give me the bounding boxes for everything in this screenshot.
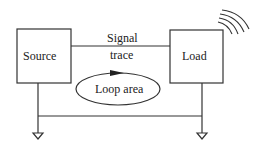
source-label: Source [23, 50, 56, 62]
loop-area-label: Loop area [95, 83, 143, 95]
arrow-right-icon [110, 70, 124, 76]
loop-area-diagram: Source Load Signal trace Loop area [0, 0, 260, 150]
ground-icon [197, 133, 207, 139]
load-label: Load [182, 50, 207, 62]
diagram-graphics [0, 0, 260, 150]
signal-trace-label-line2: trace [110, 49, 133, 61]
signal-trace-label-line1: Signal [107, 32, 138, 44]
ground-icon [33, 133, 43, 139]
